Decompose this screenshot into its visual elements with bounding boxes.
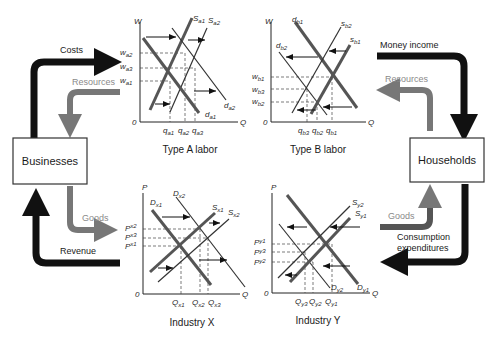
goods-left-flow-arrow <box>70 186 106 230</box>
curve-label-s2: Sx2 <box>228 208 240 218</box>
chart-industry-x: P Q 0 Dx1 Dx2 Sx1 Sx2 Px2 Px3 Px1 Qx1 Qx… <box>125 183 248 328</box>
costs-label: Costs <box>60 45 84 55</box>
money-income-label: Money income <box>380 40 439 50</box>
circular-flow-diagram: Costs Resources Money income Resources G… <box>0 0 495 341</box>
axis-y-label: W <box>265 17 274 26</box>
axis-x-label: Q <box>372 289 378 298</box>
y-tick-2: Py3 <box>254 248 266 257</box>
axis-y-label: P <box>271 183 277 192</box>
x-tick-1: Qx1 <box>172 298 185 308</box>
curve-label-s2: sb2 <box>341 19 352 29</box>
curve-label-d2: Dy2 <box>331 283 344 293</box>
y-tick-1: wb1 <box>252 72 264 82</box>
y-tick-3: Py2 <box>254 258 266 267</box>
x-tick-3: Qx3 <box>208 298 221 308</box>
resources-right-label: Resources <box>385 74 429 84</box>
supply-curve-s2 <box>292 27 341 113</box>
y-tick-3: Px1 <box>125 241 137 251</box>
curve-label-s2: Sy2 <box>352 198 364 208</box>
axis-x-label: Q <box>240 118 246 127</box>
resources-left-label: Resources <box>72 77 116 87</box>
demand-curve-d1 <box>143 38 199 113</box>
x-tick-3: qb1 <box>326 126 337 136</box>
supply-curve-s2 <box>158 219 229 282</box>
x-tick-2: Qy2 <box>309 297 322 307</box>
revenue-label: Revenue <box>60 246 96 256</box>
x-tick-2: qb2 <box>312 126 324 136</box>
y-tick-3: wb2 <box>252 97 265 107</box>
curve-label-d1: Dx1 <box>150 198 162 208</box>
axis-y-label: W <box>134 17 143 26</box>
supply-curve-s1 <box>311 45 350 114</box>
curve-label-s1: Sy1 <box>355 209 367 219</box>
x-tick-2: Qx2 <box>192 298 205 308</box>
curve-label-d1: da1 <box>205 110 216 120</box>
axis-origin: 0 <box>264 289 269 298</box>
x-tick-1: qb3 <box>298 126 310 136</box>
demand-curve-d1 <box>152 210 211 285</box>
demand-curve-d2 <box>176 197 245 287</box>
axis-origin: 0 <box>132 118 137 127</box>
x-tick-1: Qy3 <box>295 297 308 307</box>
chart-industry-y: P Q 0 Sy2 Sy1 Dy1 Dy2 Py1 Py3 Py2 Qy3 Qy… <box>254 183 378 326</box>
axis-origin: 0 <box>263 118 268 127</box>
curve-label-d2: da2 <box>224 101 236 111</box>
resources-left-flow-arrow <box>70 92 120 126</box>
y-tick-2: wa3 <box>120 62 133 72</box>
curve-label-s2: Sa2 <box>208 16 221 26</box>
x-tick-3: Qy1 <box>325 297 338 307</box>
chart-title: Type B labor <box>290 144 347 155</box>
demand-curve-d1 <box>295 22 357 108</box>
curve-label-s1: Sx1 <box>212 203 224 213</box>
goods-right-label: Goods <box>388 211 415 221</box>
y-tick-1: Py1 <box>254 238 266 247</box>
axis-origin: 0 <box>135 290 140 299</box>
households-box: Households <box>410 138 484 182</box>
y-tick-3: wa1 <box>120 76 132 86</box>
consumption-label-line2: expenditures <box>397 243 449 253</box>
consumption-label-line1: Consumption <box>397 232 450 242</box>
axis-x-label: Q <box>368 118 374 127</box>
chart-title: Type A labor <box>162 144 218 155</box>
curve-label-d2: db2 <box>276 41 288 51</box>
x-tick-1: qa1 <box>163 126 174 136</box>
x-tick-3: qa3 <box>192 126 204 136</box>
businesses-label: Businesses <box>22 155 79 167</box>
x-tick-2: qa2 <box>178 126 190 136</box>
y-tick-2: wb3 <box>252 85 265 95</box>
chart-title: Industry Y <box>296 315 341 326</box>
resources-right-flow-arrow <box>388 90 430 131</box>
y-tick-1: wa2 <box>120 48 133 58</box>
chart-type-a-labor: W Q 0 Sa1 Sa2 da1 da2 wa2 wa3 wa1 qa1 <box>120 14 246 155</box>
curve-label-d1: db1 <box>292 15 303 25</box>
households-label: Households <box>418 154 477 166</box>
axis-y-label: P <box>142 183 148 192</box>
curve-label-d1: Dy1 <box>357 283 369 293</box>
goods-left-label: Goods <box>82 213 109 223</box>
chart-type-b-labor: W Q 0 db1 db2 sb2 sb1 wb1 wb3 wb2 qb3 qb… <box>252 15 374 155</box>
curve-label-d2: Dx2 <box>173 189 186 199</box>
axis-x-label: Q <box>242 290 248 299</box>
businesses-box: Businesses <box>13 138 87 184</box>
curve-label-s1: Sa1 <box>193 14 205 24</box>
curve-label-s1: sb1 <box>350 35 361 45</box>
demand-curve-d2 <box>279 52 327 115</box>
chart-title: Industry X <box>169 317 214 328</box>
